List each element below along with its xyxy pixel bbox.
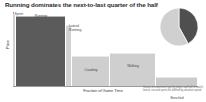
bar-label-running: Running [28, 14, 54, 18]
bar-label-benched: Benched [165, 96, 189, 100]
bar-cap [110, 53, 155, 54]
bar-cap [72, 56, 109, 57]
bar-label-lateral-running: Lateral Running [69, 24, 85, 32]
bar-running[interactable] [16, 16, 66, 86]
x-axis-title: Fraction of Game Time [60, 88, 146, 93]
pie-svg [160, 8, 198, 46]
chart-caption: Counts of movement type by player and ha… [143, 86, 205, 92]
bar-cap [156, 77, 197, 78]
pie-inset [160, 8, 198, 46]
bar-label-walking: Walking [121, 64, 145, 68]
chart-page: Running dominates the next-to-last quart… [0, 0, 206, 102]
bar-benched[interactable] [156, 77, 198, 86]
bar-label-crawling: Crawling [79, 68, 103, 72]
bar-walking[interactable] [110, 53, 156, 86]
bar-label-sprint: Sprint [15, 12, 29, 16]
y-axis-title: Pace [5, 28, 10, 62]
pie-chart [160, 8, 198, 46]
